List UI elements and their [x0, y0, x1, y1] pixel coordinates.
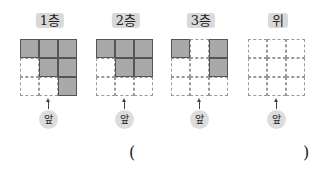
empty-cell: [286, 77, 305, 96]
empty-cell: [267, 39, 286, 58]
grid-floor-1: [20, 39, 77, 96]
empty-cell: [248, 39, 267, 58]
front-label: 앞: [39, 110, 58, 129]
arrow-up-icon: [276, 101, 277, 109]
grid-floor-2: [96, 39, 153, 96]
empty-cell: [115, 77, 134, 96]
empty-cell: [20, 58, 39, 77]
filled-cell: [39, 39, 58, 58]
empty-cell: [248, 77, 267, 96]
floor-label: 1층: [36, 13, 64, 28]
empty-cell: [39, 77, 58, 96]
empty-cell: [286, 39, 305, 58]
filled-cell: [20, 39, 39, 58]
filled-cell: [134, 58, 153, 77]
answer-open-paren: (: [129, 143, 135, 162]
empty-cell: [190, 77, 209, 96]
floor-label: 3층: [187, 13, 215, 28]
arrow-up-icon: [48, 101, 49, 109]
filled-cell: [58, 39, 77, 58]
empty-cell: [267, 77, 286, 96]
empty-cell: [190, 39, 209, 58]
front-label: 앞: [115, 110, 134, 129]
answer-close-paren: ): [303, 143, 309, 162]
empty-cell: [267, 58, 286, 77]
front-label: 앞: [190, 110, 209, 129]
filled-cell: [209, 39, 228, 58]
empty-cell: [286, 58, 305, 77]
empty-cell: [96, 77, 115, 96]
filled-cell: [115, 58, 134, 77]
empty-cell: [248, 58, 267, 77]
filled-cell: [96, 39, 115, 58]
grid-top-view[interactable]: [248, 39, 305, 96]
filled-cell: [171, 39, 190, 58]
empty-cell: [171, 77, 190, 96]
filled-cell: [209, 58, 228, 77]
empty-cell: [20, 77, 39, 96]
grid-floor-3: [171, 39, 228, 96]
empty-cell: [209, 77, 228, 96]
filled-cell: [39, 58, 58, 77]
front-label: 앞: [267, 110, 286, 129]
floor-label: 2층: [112, 13, 140, 28]
filled-cell: [134, 39, 153, 58]
arrow-up-icon: [199, 101, 200, 109]
empty-cell: [134, 77, 153, 96]
arrow-up-icon: [124, 101, 125, 109]
empty-cell: [190, 58, 209, 77]
view-label: 위: [268, 13, 288, 28]
filled-cell: [58, 58, 77, 77]
filled-cell: [115, 39, 134, 58]
empty-cell: [96, 58, 115, 77]
empty-cell: [171, 58, 190, 77]
filled-cell: [58, 77, 77, 96]
